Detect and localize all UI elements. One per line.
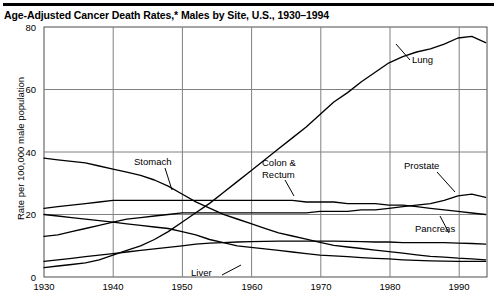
series-label-lung: Lung: [412, 54, 433, 65]
x-tick-1990: 1990: [439, 281, 479, 292]
series-label-stomach: Stomach: [134, 156, 172, 167]
x-tick-1930: 1930: [24, 281, 64, 292]
chart-figure: Age-Adjusted Cancer Death Rates,* Males …: [0, 0, 499, 300]
series-label-prostate: Prostate: [404, 160, 439, 171]
y-tick-80: 80: [8, 22, 36, 33]
x-tick-1970: 1970: [301, 281, 341, 292]
chart-canvas: [0, 0, 499, 300]
series-label-colon-rectum-line1: Colon &: [262, 157, 296, 168]
series-label-pancreas: Pancreas: [415, 223, 455, 234]
x-tick-1950: 1950: [162, 281, 202, 292]
plot-area: 0 20 40 60 80 Rate per 100,000 male popu…: [0, 0, 499, 300]
series-label-liver: Liver: [191, 267, 212, 278]
x-tick-1980: 1980: [370, 281, 410, 292]
x-tick-1940: 1940: [93, 281, 133, 292]
y-axis-title: Rate per 100,000 male population: [15, 74, 26, 224]
series-label-colon-rectum-line2: Rectum: [262, 169, 295, 180]
x-tick-1960: 1960: [232, 281, 272, 292]
